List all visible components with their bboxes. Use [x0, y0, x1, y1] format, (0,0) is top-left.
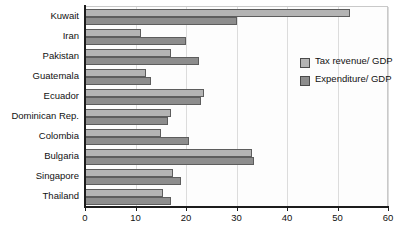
tick-label: 20 [181, 212, 192, 223]
legend-swatch-icon [300, 58, 310, 68]
bar [85, 169, 173, 177]
bar [85, 77, 151, 85]
bar [85, 37, 186, 45]
legend-entry[interactable]: Expenditure/ GDP [300, 74, 396, 86]
bar [85, 157, 254, 165]
bars-layer [85, 7, 387, 206]
bar [85, 189, 163, 197]
category-label: Colombia [0, 131, 79, 141]
bar-group [85, 129, 387, 145]
bar [85, 89, 204, 97]
tick-label: 10 [130, 212, 141, 223]
legend-label: Expenditure/ GDP [315, 74, 392, 85]
chart-legend: Tax revenue/ GDPExpenditure/ GDP [300, 56, 396, 92]
bar [85, 57, 199, 65]
tick-label: 40 [282, 212, 293, 223]
bar-group [85, 169, 387, 185]
tick-mark [85, 208, 86, 211]
tick-label: 60 [383, 212, 394, 223]
tick-mark [186, 208, 187, 211]
bar [85, 109, 171, 117]
tick-mark [338, 208, 339, 211]
category-label: Iran [0, 31, 79, 41]
tick-mark [388, 208, 389, 211]
tick-label: 50 [332, 212, 343, 223]
bar-group [85, 9, 387, 25]
bar-chart: KuwaitIranPakistanGuatemalaEcuadorDomini… [0, 0, 404, 235]
tick-mark [287, 208, 288, 211]
bar [85, 49, 171, 57]
tick-mark [237, 208, 238, 211]
bar [85, 17, 237, 25]
category-label: Singapore [0, 171, 79, 181]
bar [85, 137, 189, 145]
category-label: Dominican Rep. [0, 111, 79, 121]
category-label: Bulgaria [0, 151, 79, 161]
tick-label: 0 [82, 212, 87, 223]
bar [85, 97, 201, 105]
x-axis: 0102030405060 [85, 208, 388, 232]
legend-entry[interactable]: Tax revenue/ GDP [300, 56, 396, 68]
category-label: Thailand [0, 191, 79, 201]
category-label: Pakistan [0, 51, 79, 61]
bar-group [85, 149, 387, 165]
bar-group [85, 109, 387, 125]
bar [85, 177, 181, 185]
y-axis-line [84, 5, 86, 208]
bar [85, 129, 161, 137]
tick-label: 30 [231, 212, 242, 223]
bar [85, 9, 350, 17]
legend-label: Tax revenue/ GDP [315, 56, 393, 67]
category-label: Ecuador [0, 91, 79, 101]
gridline [388, 7, 389, 206]
bar [85, 117, 168, 125]
bar [85, 197, 171, 205]
category-axis: KuwaitIranPakistanGuatemalaEcuadorDomini… [0, 6, 83, 206]
bar [85, 69, 146, 77]
category-label: Guatemala [0, 71, 79, 81]
bar-group [85, 189, 387, 205]
tick-mark [136, 208, 137, 211]
bar [85, 149, 252, 157]
legend-swatch-icon [300, 76, 310, 86]
bar [85, 29, 141, 37]
bar-group [85, 29, 387, 45]
category-label: Kuwait [0, 11, 79, 21]
plot-area [85, 6, 388, 206]
